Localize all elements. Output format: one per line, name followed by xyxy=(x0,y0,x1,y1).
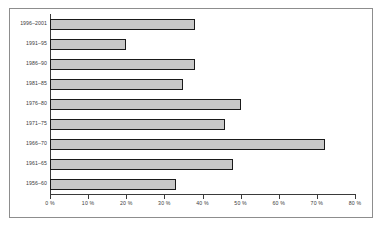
y-axis-category-label: 1996–2001 xyxy=(20,20,47,26)
x-tick xyxy=(164,194,165,199)
x-tick xyxy=(279,194,280,199)
y-axis-category-label: 1966–70 xyxy=(26,140,47,146)
x-tick-label: 40 % xyxy=(196,200,209,206)
bar xyxy=(50,39,126,50)
x-tick-label: 0 % xyxy=(45,200,55,206)
y-axis-label-slot: 1966–70 xyxy=(0,140,47,148)
y-axis-label-slot: 1971–75 xyxy=(0,120,47,128)
bar xyxy=(50,179,176,190)
x-tick xyxy=(241,194,242,199)
plot-area: 0 %10 %20 %30 %40 %50 %60 %70 %80 % 1996… xyxy=(0,0,382,227)
x-tick-label: 50 % xyxy=(234,200,247,206)
y-axis-category-label: 1961–65 xyxy=(26,160,47,166)
x-tick-label: 10 % xyxy=(82,200,95,206)
bar xyxy=(50,119,225,130)
x-tick-label: 80 % xyxy=(349,200,362,206)
x-tick-label: 60 % xyxy=(272,200,285,206)
y-axis-label-slot: 1961–65 xyxy=(0,160,47,168)
x-tick-label: 20 % xyxy=(120,200,133,206)
y-axis-label-slot: 1981–85 xyxy=(0,80,47,88)
x-tick xyxy=(203,194,204,199)
x-tick xyxy=(126,194,127,199)
bar-chart-figure: 0 %10 %20 %30 %40 %50 %60 %70 %80 % 1996… xyxy=(0,0,382,227)
y-axis-label-slot: 1956–60 xyxy=(0,180,47,188)
y-axis-label-slot: 1991–95 xyxy=(0,40,47,48)
x-tick xyxy=(88,194,89,199)
y-axis-label-slot: 1996–2001 xyxy=(0,20,47,28)
x-tick-label: 70 % xyxy=(311,200,324,206)
y-axis-category-label: 1981–85 xyxy=(26,80,47,86)
y-axis-label-slot: 1986–90 xyxy=(0,60,47,68)
bar xyxy=(50,79,183,90)
bar xyxy=(50,139,325,150)
y-axis-category-label: 1976–80 xyxy=(26,100,47,106)
y-axis-category-label: 1971–75 xyxy=(26,120,47,126)
x-tick xyxy=(50,194,51,199)
x-tick-label: 30 % xyxy=(158,200,171,206)
y-axis-category-label: 1991–95 xyxy=(26,40,47,46)
bar xyxy=(50,59,195,70)
bar xyxy=(50,99,241,110)
y-axis-category-label: 1956–60 xyxy=(26,180,47,186)
bar xyxy=(50,159,233,170)
y-axis-category-label: 1986–90 xyxy=(26,60,47,66)
x-tick xyxy=(317,194,318,199)
x-tick xyxy=(355,194,356,199)
bar xyxy=(50,19,195,30)
y-axis-label-slot: 1976–80 xyxy=(0,100,47,108)
